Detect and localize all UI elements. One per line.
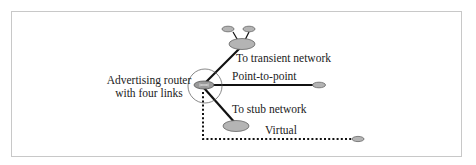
point-to-point-link-label: Point-to-point xyxy=(232,70,297,83)
virtual-link-label: Virtual xyxy=(265,124,297,137)
transient-network-node xyxy=(229,39,255,50)
router-label-line1: Advertising router xyxy=(104,74,194,87)
transient-host-node-left xyxy=(222,26,234,32)
router-label-line2: with four links xyxy=(104,87,194,100)
virtual-endpoint-node xyxy=(352,136,364,141)
point-to-point-node xyxy=(313,82,326,88)
stub-network-node xyxy=(223,121,249,132)
transient-link-label: To transient network xyxy=(236,52,331,65)
transient-host-node-right xyxy=(243,26,255,32)
stub-link-label: To stub network xyxy=(232,103,307,116)
router-label: Advertising router with four links xyxy=(104,74,194,100)
